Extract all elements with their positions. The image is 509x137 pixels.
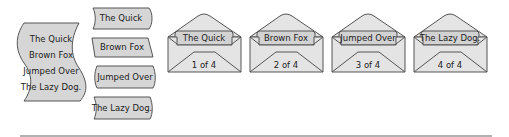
envelope-label: The Quick: [182, 33, 226, 43]
envelope-counter: 2 of 4: [274, 60, 298, 70]
envelope-counter: 3 of 4: [356, 60, 380, 70]
envelope-label: Brown Fox: [264, 33, 308, 43]
envelope-2: Brown Fox 2 of 4: [250, 14, 323, 72]
envelope-1: The Quick 1 of 4: [168, 14, 241, 72]
source-document: The Quick Brown Fox Jumped Over The Lazy…: [17, 23, 86, 101]
split-item-label: The Lazy Dog.: [91, 103, 153, 113]
source-line-4: The Lazy Dog.: [20, 82, 82, 92]
split-item-label: Brown Fox: [100, 42, 144, 52]
envelope-4: The Lazy Dog. 4 of 4: [414, 14, 487, 72]
envelope-counter: 4 of 4: [438, 60, 462, 70]
split-item-label: The Quick: [99, 13, 143, 23]
split-item-1: The Quick: [93, 8, 152, 29]
source-line-3: Jumped Over: [22, 66, 79, 76]
split-item-label: Jumped Over: [96, 72, 153, 82]
envelope-counter: 1 of 4: [192, 60, 216, 70]
envelope-label: Jumped Over: [339, 33, 396, 43]
split-item-4: The Lazy Dog.: [91, 97, 153, 119]
envelope-3: Jumped Over 3 of 4: [332, 14, 405, 72]
split-item-3: Jumped Over: [95, 66, 156, 88]
source-line-1: The Quick: [29, 34, 73, 44]
envelope-label: The Lazy Dog.: [419, 33, 481, 43]
split-item-2: Brown Fox: [92, 38, 153, 57]
message-splitter-diagram: The Quick Brown Fox Jumped Over The Lazy…: [0, 0, 509, 137]
source-line-2: Brown Fox: [29, 50, 73, 60]
